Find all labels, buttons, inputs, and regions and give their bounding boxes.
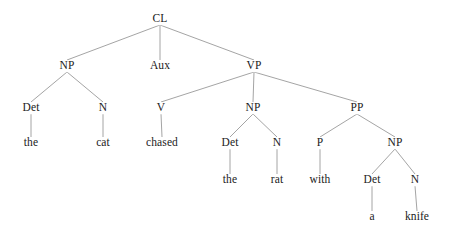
tree-edge bbox=[395, 149, 415, 174]
category-node-np3: NP bbox=[386, 137, 404, 149]
terminal-node-rat: rat bbox=[269, 174, 284, 186]
terminal-node-knife: knife bbox=[403, 211, 430, 223]
category-node-n2: N bbox=[271, 137, 282, 149]
terminal-node-a: a bbox=[368, 211, 376, 223]
tree-edge bbox=[161, 72, 254, 102]
tree-edge bbox=[67, 25, 160, 60]
tree-edges-layer bbox=[0, 0, 451, 244]
tree-edge bbox=[357, 114, 395, 137]
category-node-p: P bbox=[315, 137, 325, 149]
tree-edge bbox=[67, 72, 103, 102]
category-node-v: V bbox=[155, 102, 166, 114]
category-node-pp: PP bbox=[349, 102, 365, 114]
category-node-vp: VP bbox=[245, 60, 263, 72]
tree-edge bbox=[230, 114, 253, 137]
category-node-det2: Det bbox=[220, 137, 240, 149]
tree-edge bbox=[160, 25, 254, 60]
terminal-node-chased: chased bbox=[145, 137, 180, 149]
terminal-node-the1: the bbox=[22, 137, 39, 149]
tree-edge bbox=[372, 149, 395, 174]
terminal-node-with: with bbox=[308, 174, 332, 186]
category-node-n3: N bbox=[409, 174, 420, 186]
tree-edge bbox=[320, 114, 357, 137]
tree-edge bbox=[254, 72, 357, 102]
category-node-n1: N bbox=[97, 102, 108, 114]
tree-edge bbox=[415, 186, 417, 211]
category-node-det1: Det bbox=[21, 102, 41, 114]
category-node-np1: NP bbox=[58, 60, 76, 72]
terminal-node-cat: cat bbox=[95, 137, 112, 149]
category-node-aux: Aux bbox=[148, 60, 171, 72]
tree-edge bbox=[253, 72, 254, 102]
terminal-node-the2: the bbox=[221, 174, 238, 186]
tree-edge bbox=[31, 72, 67, 102]
tree-edge bbox=[161, 114, 162, 137]
tree-edge bbox=[253, 114, 277, 137]
category-node-np2: NP bbox=[244, 102, 262, 114]
syntax-tree-figure: CLNPAuxVPDetNVNPPPthecatchasedDetNPNPthe… bbox=[0, 0, 451, 244]
category-node-cl: CL bbox=[151, 13, 169, 25]
category-node-det3: Det bbox=[362, 174, 382, 186]
